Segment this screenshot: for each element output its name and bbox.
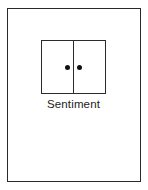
marker-dot-row [42,41,105,93]
split-rectangle-shape[interactable] [41,40,106,94]
right-dot-icon [77,65,82,70]
sentiment-node-label: Sentiment [41,97,106,111]
diagram-canvas: Sentiment [0,0,148,190]
left-dot-icon [65,65,70,70]
sentiment-node[interactable]: Sentiment [41,40,106,111]
